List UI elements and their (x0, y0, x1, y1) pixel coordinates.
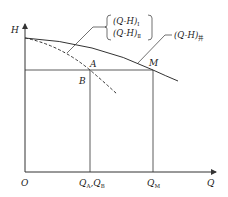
y-axis-label: H (10, 25, 19, 35)
point-b-label: B (78, 76, 86, 86)
origin-label: O (21, 178, 29, 188)
point-m-label: M (148, 58, 159, 68)
x-axis-label: Q (207, 178, 215, 188)
qa-qb-tick-label: QA,QB (79, 178, 105, 189)
legend-curve-1: (Q-H)Ⅰ (113, 16, 139, 27)
legend-curve-2: (Q-H)Ⅱ (113, 28, 141, 39)
qm-tick-label: QM (147, 178, 160, 189)
point-a-label: A (89, 59, 97, 69)
legend-brace-right (148, 15, 152, 40)
pump-curve-diagram: (Q-H)Ⅰ (Q-H)Ⅱ (Q-H)并 H Q O A B M QA,QB Q… (0, 0, 228, 197)
single-pump-curve (25, 38, 117, 94)
leader-line-individual (67, 27, 106, 53)
legend-brace-left (105, 15, 111, 40)
legend-combined: (Q-H)并 (174, 30, 204, 42)
